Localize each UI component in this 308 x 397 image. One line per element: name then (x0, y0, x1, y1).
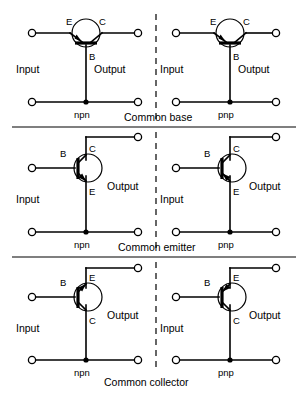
row-caption: Common base (124, 111, 192, 123)
base-label: B (204, 277, 210, 288)
cell-common-emitter-npn: B C E Input Output npn (16, 133, 142, 250)
figure-sheet: E C B Input Output npn E C B (0, 0, 308, 397)
row-common-base: E C B Input Output npn E C B (16, 16, 280, 123)
circuit-diagram: E C B Input Output npn E C B (0, 0, 308, 397)
collector-label: C (89, 315, 96, 326)
cell-common-emitter-pnp: B C E Input Output pnp (160, 133, 281, 250)
input-return-terminal[interactable] (28, 228, 35, 235)
junction-dot (227, 99, 232, 104)
output-terminal[interactable] (134, 29, 141, 36)
junction-dot (83, 229, 88, 234)
input-label: Input (16, 193, 39, 205)
output-terminal[interactable] (272, 133, 279, 140)
junction-dot (83, 357, 88, 362)
device-type-label: npn (74, 239, 90, 250)
junction-dot (227, 357, 232, 362)
base-label: B (60, 148, 66, 159)
cell-common-base-npn: E C B Input Output npn (16, 16, 142, 120)
device-type-label: pnp (218, 109, 234, 120)
output-return-terminal[interactable] (134, 98, 141, 105)
device-type-label: npn (74, 109, 90, 120)
output-label: Output (107, 309, 139, 321)
output-return-terminal[interactable] (134, 228, 141, 235)
emitter-label: E (210, 16, 216, 27)
junction-dot (227, 229, 232, 234)
collector-label: C (243, 16, 250, 27)
emitter-arrow-pnp (219, 35, 227, 42)
row-common-collector: B E C Input Output npn B E (16, 264, 281, 388)
cell-common-collector-npn: B E C Input Output npn (16, 264, 142, 378)
emitter-label: E (233, 272, 239, 283)
base-label: B (204, 148, 210, 159)
device-type-label: npn (74, 367, 90, 378)
collector-label: C (233, 315, 240, 326)
input-terminal[interactable] (172, 29, 179, 36)
collector-lead (235, 33, 246, 42)
input-return-terminal[interactable] (172, 98, 179, 105)
base-label: B (60, 277, 66, 288)
output-return-terminal[interactable] (272, 98, 279, 105)
junction-dot (83, 99, 88, 104)
row-caption: Common emitter (118, 241, 196, 253)
input-label: Input (16, 63, 39, 75)
row-common-emitter: B C E Input Output npn B C (16, 133, 281, 253)
output-label: Output (107, 180, 139, 192)
input-label: Input (160, 193, 183, 205)
input-return-terminal[interactable] (172, 356, 179, 363)
output-return-terminal[interactable] (272, 228, 279, 235)
emitter-label: E (89, 186, 95, 197)
output-terminal[interactable] (134, 264, 141, 271)
output-return-terminal[interactable] (134, 356, 141, 363)
collector-lead (91, 33, 102, 42)
input-terminal[interactable] (172, 164, 179, 171)
cell-common-base-pnp: E C B Input Output pnp (160, 16, 280, 120)
collector-label: C (89, 143, 96, 154)
row-caption: Common collector (104, 376, 189, 388)
output-terminal[interactable] (134, 133, 141, 140)
input-label: Input (160, 63, 183, 75)
input-label: Input (16, 322, 39, 334)
input-label: Input (160, 322, 183, 334)
base-label: B (233, 51, 239, 62)
input-return-terminal[interactable] (28, 356, 35, 363)
output-label: Output (249, 309, 281, 321)
input-terminal[interactable] (28, 293, 35, 300)
output-terminal[interactable] (272, 29, 279, 36)
output-terminal[interactable] (272, 264, 279, 271)
device-type-label: pnp (218, 239, 234, 250)
output-return-terminal[interactable] (272, 356, 279, 363)
base-label: B (89, 51, 95, 62)
output-label: Output (94, 63, 126, 75)
input-return-terminal[interactable] (28, 98, 35, 105)
collector-label: C (233, 143, 240, 154)
collector-label: C (99, 16, 106, 27)
emitter-label: E (66, 16, 72, 27)
emitter-label: E (233, 186, 239, 197)
output-label: Output (249, 180, 281, 192)
emitter-label: E (89, 272, 95, 283)
device-type-label: pnp (218, 367, 234, 378)
input-terminal[interactable] (172, 293, 179, 300)
emitter-arrow-npn (75, 35, 83, 42)
cell-common-collector-pnp: B E C Input Output pnp (160, 264, 281, 378)
output-label: Output (238, 63, 270, 75)
input-terminal[interactable] (28, 164, 35, 171)
input-terminal[interactable] (28, 29, 35, 36)
input-return-terminal[interactable] (172, 228, 179, 235)
